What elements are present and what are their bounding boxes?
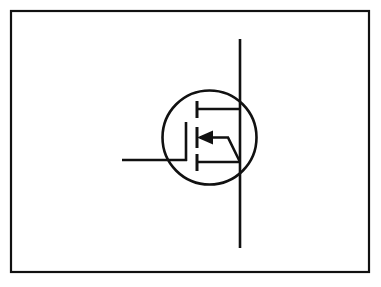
outer-border-rectangle <box>11 11 369 272</box>
substrate-arrow-icon <box>197 131 213 145</box>
mosfet-symbol-diagram <box>0 0 381 287</box>
figure-canvas <box>0 0 381 287</box>
